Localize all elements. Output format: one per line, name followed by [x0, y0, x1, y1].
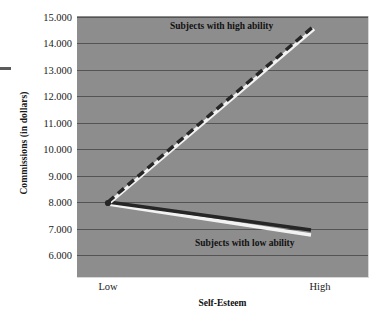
y-tick-label: 9.000 [48, 171, 72, 182]
x-tick-label-low: Low [98, 281, 117, 292]
chart-figure: Commissions (in dollars) 15.000 14.000 1… [0, 0, 381, 323]
plot-area: Subjects with high ability Subjects with… [77, 16, 369, 278]
series-high-ability-line [108, 26, 314, 202]
series-label-low-ability: Subjects with low ability [195, 238, 295, 248]
x-tick-label-high: High [310, 281, 331, 292]
series-low-ability-line [108, 202, 311, 230]
y-tick-label: 12.000 [43, 91, 72, 102]
series-origin-marker [105, 200, 111, 206]
y-tick-label: 8.000 [48, 197, 72, 208]
y-tick-label: 11.000 [44, 118, 73, 129]
y-tick-label: 15.000 [43, 12, 72, 23]
y-tick-label: 13.000 [43, 65, 72, 76]
series-low-ability-highlight [108, 204, 311, 235]
y-tick-label: 10.000 [43, 144, 72, 155]
series-label-high-ability: Subjects with high ability [170, 21, 273, 31]
y-tick-label: 7.000 [48, 224, 72, 235]
y-axis-tick-labels: 15.000 14.000 13.000 12.000 11.000 10.00… [0, 0, 77, 323]
y-tick-label: 14.000 [43, 38, 72, 49]
x-axis-title: Self-Esteem [77, 298, 368, 308]
y-tick-label: 6.000 [48, 250, 72, 261]
